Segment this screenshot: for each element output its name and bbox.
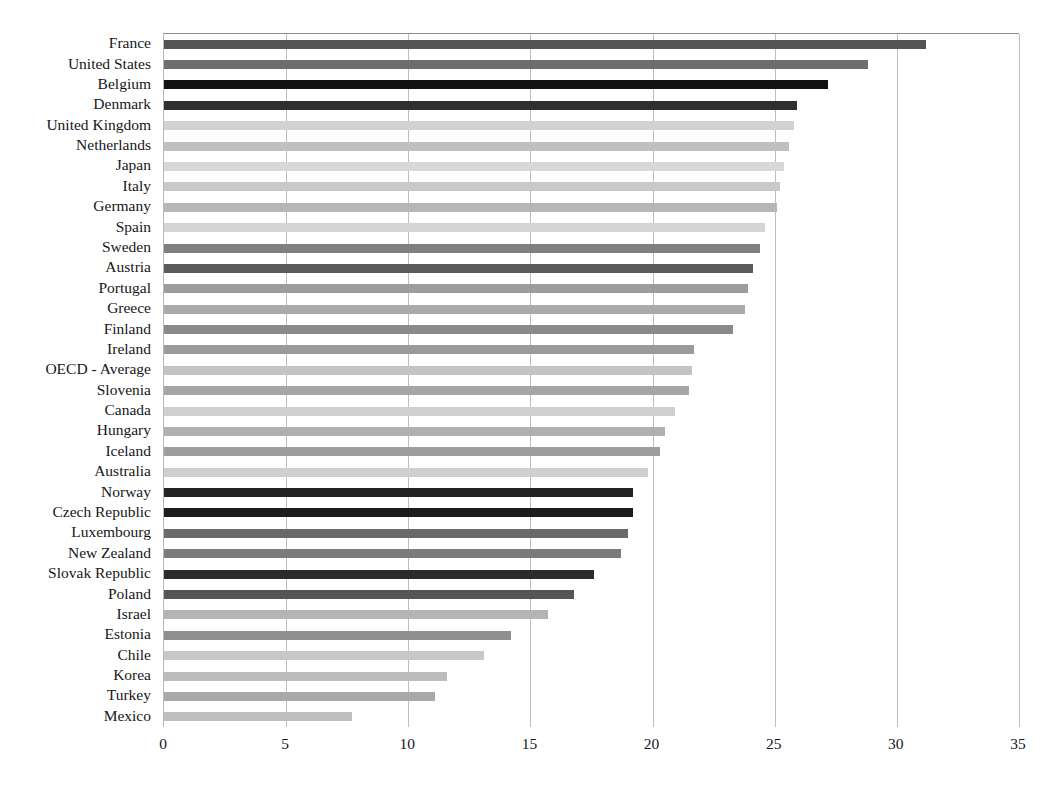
bar (164, 712, 352, 721)
bar-row (164, 523, 1019, 543)
bar (164, 672, 447, 681)
bar-row (164, 156, 1019, 176)
bar (164, 631, 511, 640)
y-axis-category-labels: FranceUnited StatesBelgiumDenmarkUnited … (0, 33, 157, 726)
chart-title (0, 0, 1057, 5)
bar-row (164, 279, 1019, 299)
bar (164, 345, 694, 354)
y-axis-label: Hungary (0, 422, 157, 438)
bar (164, 610, 548, 619)
x-tick-label-30: 30 (888, 735, 904, 753)
bar-row (164, 707, 1019, 727)
bar-row (164, 177, 1019, 197)
bar (164, 508, 633, 517)
bar (164, 284, 748, 293)
bar-row (164, 584, 1019, 604)
bar (164, 244, 760, 253)
bar-row (164, 54, 1019, 74)
bar (164, 305, 745, 314)
bar-row (164, 340, 1019, 360)
bar-row (164, 544, 1019, 564)
y-axis-label: Canada (0, 402, 157, 418)
y-axis-label: Israel (0, 606, 157, 622)
y-axis-label: Chile (0, 647, 157, 663)
bar-rows (164, 34, 1019, 727)
y-axis-label: Finland (0, 321, 157, 337)
bar (164, 121, 794, 130)
bar (164, 468, 648, 477)
y-axis-label: Korea (0, 667, 157, 683)
bar (164, 366, 692, 375)
bar-row (164, 401, 1019, 421)
y-axis-label: New Zealand (0, 545, 157, 561)
y-axis-label: Germany (0, 198, 157, 214)
bar-row (164, 319, 1019, 339)
bar (164, 325, 733, 334)
y-axis-label: Netherlands (0, 137, 157, 153)
y-axis-label: United States (0, 56, 157, 72)
y-axis-label: United Kingdom (0, 117, 157, 133)
y-axis-label: Sweden (0, 239, 157, 255)
y-axis-label: Luxembourg (0, 524, 157, 540)
bar-row (164, 421, 1019, 441)
bar (164, 407, 675, 416)
y-axis-label: Greece (0, 300, 157, 316)
y-axis-label: Austria (0, 259, 157, 275)
bar-row (164, 136, 1019, 156)
bar-row (164, 197, 1019, 217)
y-axis-label: Turkey (0, 687, 157, 703)
y-axis-label: Norway (0, 484, 157, 500)
bar-row (164, 442, 1019, 462)
bar-row (164, 34, 1019, 54)
horizontal-bar-chart: FranceUnited StatesBelgiumDenmarkUnited … (0, 0, 1057, 785)
bar (164, 40, 926, 49)
bar (164, 264, 753, 273)
y-axis-label: Mexico (0, 708, 157, 724)
bar (164, 101, 797, 110)
bar (164, 488, 633, 497)
y-axis-label: Slovak Republic (0, 565, 157, 581)
y-axis-label: Denmark (0, 96, 157, 112)
y-axis-label: France (0, 35, 157, 51)
x-tick-label-15: 15 (522, 735, 538, 753)
bar-row (164, 217, 1019, 237)
bar-row (164, 258, 1019, 278)
y-axis-label: Australia (0, 463, 157, 479)
bar (164, 162, 784, 171)
bar (164, 549, 621, 558)
x-tick-label-35: 35 (1010, 735, 1026, 753)
bar-row (164, 116, 1019, 136)
y-axis-label: Belgium (0, 76, 157, 92)
x-axis-tick-labels: 05101520253035 (0, 735, 1057, 765)
y-axis-label: Spain (0, 219, 157, 235)
y-axis-label: Portugal (0, 280, 157, 296)
x-tick-label-5: 5 (281, 735, 289, 753)
bar (164, 386, 689, 395)
bar (164, 60, 868, 69)
bar (164, 529, 628, 538)
bar (164, 570, 594, 579)
y-axis-label: Slovenia (0, 382, 157, 398)
bar-row (164, 299, 1019, 319)
bar-row (164, 462, 1019, 482)
bar-row (164, 360, 1019, 380)
bar-row (164, 381, 1019, 401)
bar (164, 427, 665, 436)
bar (164, 182, 780, 191)
bar (164, 447, 660, 456)
bar (164, 651, 484, 660)
bar (164, 80, 828, 89)
bar-row (164, 605, 1019, 625)
bar-row (164, 75, 1019, 95)
bar-row (164, 625, 1019, 645)
plot-area (163, 33, 1019, 727)
y-axis-label: Czech Republic (0, 504, 157, 520)
gridline-35 (1019, 34, 1020, 727)
bar-row (164, 564, 1019, 584)
bar (164, 223, 765, 232)
y-axis-label: Estonia (0, 626, 157, 642)
x-tick-label-25: 25 (766, 735, 782, 753)
x-tick-label-20: 20 (644, 735, 660, 753)
y-axis-label: Ireland (0, 341, 157, 357)
bar-row (164, 95, 1019, 115)
